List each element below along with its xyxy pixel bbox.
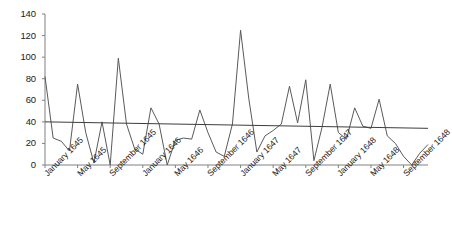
chart-plot-area <box>0 0 435 243</box>
line-chart: 020406080100120140 January 1645May 1645S… <box>0 0 435 243</box>
